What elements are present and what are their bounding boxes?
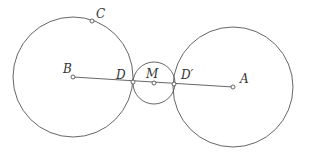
- point-label-a: A: [239, 72, 249, 86]
- point-label-dp: D′: [180, 68, 194, 82]
- point-dp-marker: [172, 82, 176, 86]
- point-m-marker: [152, 81, 156, 85]
- diagram-canvas: BCDMD′A: [0, 0, 312, 159]
- point-c-marker: [90, 19, 94, 23]
- point-label-c: C: [96, 7, 105, 21]
- point-label-d: D: [115, 68, 126, 82]
- point-d-marker: [131, 80, 135, 84]
- point-a-marker: [231, 85, 235, 89]
- point-label-b: B: [62, 62, 72, 76]
- labels-group: BCDMD′A: [62, 7, 249, 86]
- geometry-diagram: BCDMD′A: [0, 0, 312, 159]
- point-label-m: M: [145, 67, 159, 81]
